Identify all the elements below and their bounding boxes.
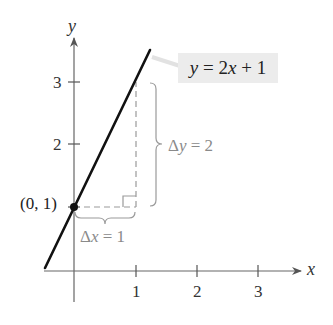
rise-brace — [150, 83, 162, 206]
equation-label-box: y = 2x + 1 — [178, 53, 278, 83]
x-tick-label-1: 1 — [132, 283, 141, 300]
graph-canvas — [0, 0, 333, 325]
label-leader-line — [152, 57, 180, 66]
x-tick-label-3: 3 — [254, 283, 263, 300]
right-angle-marker — [123, 196, 136, 207]
rise-delta-symbol: Δ — [168, 136, 179, 155]
y-tick-label-2: 2 — [53, 136, 62, 153]
equation-label: y = 2x + 1 — [190, 57, 266, 79]
rise-label: Δy = 2 — [168, 137, 213, 154]
intercept-point — [70, 203, 78, 211]
run-brace — [75, 212, 135, 224]
slope-diagram: y x 3 2 1 2 3 (0, 1) Δx = 1 Δy = 2 y = 2… — [0, 0, 333, 325]
run-label: Δx = 1 — [80, 228, 125, 245]
x-tick-label-2: 2 — [193, 283, 202, 300]
run-delta-symbol: Δ — [80, 227, 91, 246]
point-label: (0, 1) — [20, 195, 57, 212]
run-value: = 1 — [98, 227, 125, 246]
y-tick-label-3: 3 — [53, 74, 62, 91]
y-axis-label: y — [68, 17, 76, 35]
x-axis-label: x — [307, 260, 315, 278]
rise-value: = 2 — [186, 136, 213, 155]
